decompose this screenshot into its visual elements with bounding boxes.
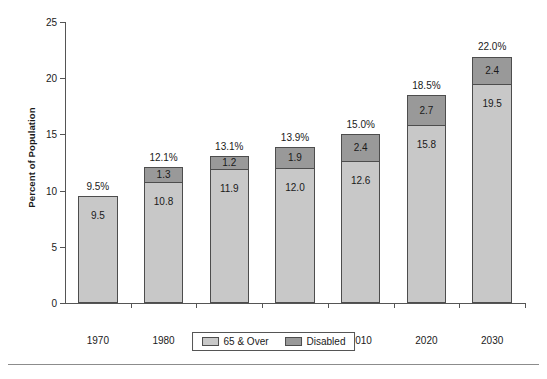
bar-segment-disabled[interactable]: 2.4: [472, 57, 511, 84]
y-axis-tick-mark: [60, 78, 65, 79]
bar-segment-value: 2.4: [354, 143, 368, 153]
bar-segment-65-over[interactable]: 19.5: [472, 84, 511, 303]
bar-stack[interactable]: 2.412.6: [341, 134, 380, 303]
y-axis-tick-label: 5: [51, 241, 57, 252]
x-axis-line: [65, 303, 526, 304]
bar-segment-disabled[interactable]: 2.4: [341, 134, 380, 161]
bar-segment-value: 1.2: [222, 158, 236, 168]
bar-segment-value: 19.5: [482, 99, 501, 109]
bar-segment-value: 11.9: [220, 184, 239, 194]
bar-segment-value: 1.9: [288, 153, 302, 163]
y-axis-tick-mark: [60, 191, 65, 192]
bar-segment-65-over[interactable]: 15.8: [407, 125, 446, 303]
bar-segment-value: 1.3: [157, 170, 171, 180]
bar-total-label: 18.5%: [412, 80, 440, 91]
bar-segment-65-over[interactable]: 10.8: [144, 182, 183, 303]
x-axis-tick-mark: [328, 303, 329, 308]
y-axis-tick-mark: [60, 22, 65, 23]
bar-segment-65-over[interactable]: 9.5: [78, 196, 117, 303]
legend-label: Disabled: [307, 336, 346, 347]
x-axis-tick-mark: [262, 303, 263, 308]
legend-swatch-icon: [285, 337, 302, 346]
bar-segment-disabled[interactable]: 1.3: [144, 167, 183, 182]
legend-entry[interactable]: Disabled: [285, 336, 346, 347]
chart-legend: 65 & OverDisabled: [192, 332, 356, 351]
chart-figure: Percent of Population 05101520259.59.5%1…: [0, 0, 547, 379]
bar-segment-65-over[interactable]: 12.6: [341, 161, 380, 303]
bar-total-label: 9.5%: [86, 181, 109, 192]
x-axis-tick-label: 2030: [481, 335, 503, 346]
y-axis-tick-label: 25: [46, 17, 57, 28]
y-axis-tick-label: 0: [51, 298, 57, 309]
bar-segment-value: 2.7: [419, 106, 433, 116]
x-axis-tick-mark: [196, 303, 197, 308]
x-axis-tick-label: 1980: [152, 335, 174, 346]
bar-total-label: 13.1%: [215, 141, 243, 152]
bar-total-label: 12.1%: [149, 152, 177, 163]
x-axis-tick-mark: [394, 303, 395, 308]
bar-stack[interactable]: 9.5: [78, 196, 117, 303]
x-axis-tick-label: 1970: [87, 335, 109, 346]
bar-segment-65-over[interactable]: 11.9: [210, 169, 249, 303]
bar-segment-65-over[interactable]: 12.0: [275, 168, 314, 303]
bar-segment-value: 12.6: [351, 176, 370, 186]
bar-total-label: 22.0%: [478, 41, 506, 52]
x-axis-tick-label: 2020: [415, 335, 437, 346]
y-axis-tick-label: 20: [46, 73, 57, 84]
legend-swatch-icon: [202, 337, 219, 346]
y-axis-title: Percent of Population: [26, 78, 37, 238]
bar-segment-disabled[interactable]: 1.9: [275, 147, 314, 168]
y-axis-tick-mark: [60, 247, 65, 248]
bar-segment-value: 15.8: [417, 140, 436, 150]
bar-segment-disabled[interactable]: 1.2: [210, 156, 249, 169]
bar-segment-value: 9.5: [91, 211, 105, 221]
footer-divider: [8, 364, 539, 365]
legend-label: 65 & Over: [224, 336, 269, 347]
bar-total-label: 13.9%: [281, 132, 309, 143]
x-axis-tick-mark: [459, 303, 460, 308]
y-axis-tick-mark: [60, 134, 65, 135]
bar-segment-value: 2.4: [485, 66, 499, 76]
plot-area: 05101520259.59.5%19701.310.812.1%19801.2…: [65, 22, 525, 303]
bar-total-label: 15.0%: [347, 119, 375, 130]
bar-stack[interactable]: 1.310.8: [144, 167, 183, 303]
bar-segment-value: 10.8: [154, 197, 173, 207]
bar-stack[interactable]: 1.912.0: [275, 147, 314, 303]
bar-stack[interactable]: 2.419.5: [472, 57, 511, 303]
legend-entry[interactable]: 65 & Over: [202, 336, 269, 347]
x-axis-tick-mark: [131, 303, 132, 308]
y-axis-tick-mark: [60, 303, 65, 304]
bar-segment-value: 12.0: [285, 183, 304, 193]
y-axis-tick-label: 15: [46, 129, 57, 140]
bar-segment-disabled[interactable]: 2.7: [407, 95, 446, 125]
y-axis-tick-label: 10: [46, 185, 57, 196]
x-axis-end-tick: [525, 303, 526, 308]
bar-stack[interactable]: 1.211.9: [210, 156, 249, 303]
bar-stack[interactable]: 2.715.8: [407, 95, 446, 303]
